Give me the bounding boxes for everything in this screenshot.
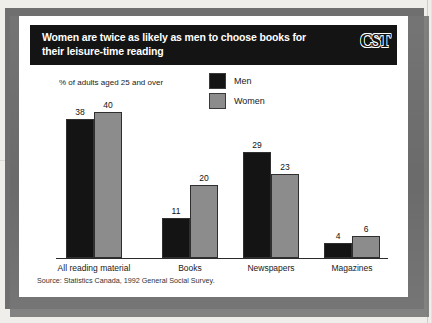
bar-value-label: 20 — [191, 173, 217, 183]
bar-men-newspapers: 29 — [243, 152, 271, 258]
scanned-page: Women are twice as likely as men to choo… — [0, 0, 432, 323]
chart-subtitle: % of adults aged 25 and over — [59, 78, 163, 87]
bar-value-label: 38 — [67, 107, 93, 117]
bar-women-newspapers: 23 — [271, 174, 299, 258]
title-banner: Women are twice as likely as men to choo… — [30, 25, 397, 65]
page-title: Women are twice as likely as men to choo… — [42, 31, 327, 58]
bar-value-label: 23 — [272, 162, 298, 172]
bar-value-label: 6 — [353, 224, 379, 234]
bar-value-label: 29 — [244, 140, 270, 150]
figure-card: Women are twice as likely as men to choo… — [19, 16, 408, 297]
bar-value-label: 4 — [325, 231, 351, 241]
bar-men-all-reading-material: 38 — [66, 119, 94, 258]
bar-value-label: 40 — [95, 100, 121, 110]
bar-men-books: 11 — [162, 218, 190, 258]
legend-item-men: Men — [209, 72, 265, 89]
cst-logo: CST — [360, 31, 389, 52]
legend-swatch-men — [209, 73, 226, 89]
bar-women-books: 20 — [190, 185, 218, 258]
bar-women-all-reading-material: 40 — [94, 112, 122, 258]
bar-women-magazines: 6 — [352, 236, 380, 258]
legend-label-men: Men — [234, 76, 252, 86]
x-axis-line — [56, 258, 388, 259]
bar-men-magazines: 4 — [324, 243, 352, 258]
source-note: Source: Statistics Canada, 1992 General … — [37, 276, 215, 285]
x-axis-label-magazines: Magazines — [294, 263, 410, 273]
bar-value-label: 11 — [163, 206, 189, 216]
